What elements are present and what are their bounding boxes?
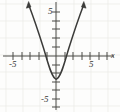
x-axis-tick-label-5: 5: [89, 60, 94, 69]
y-axis-tick-label-neg5: -5: [41, 95, 49, 104]
curve-arrowhead-left: [26, 2, 31, 9]
graph-figure: 5 -5 -5 5 x: [0, 0, 120, 112]
x-axis-tick-label-neg5: -5: [9, 60, 17, 69]
curve-arrowhead-right: [81, 2, 86, 9]
x-axis: [3, 52, 114, 60]
coordinate-plane: [0, 0, 120, 112]
y-axis-tick-label-5: 5: [48, 7, 53, 16]
x-axis-label: x: [111, 52, 115, 60]
